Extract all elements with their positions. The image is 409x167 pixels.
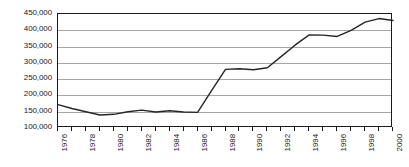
x-axis-tick xyxy=(169,127,170,131)
x-axis-tick xyxy=(252,127,253,131)
x-axis-tick-label: 1978 xyxy=(89,134,97,151)
x-axis-tick xyxy=(378,127,379,131)
x-axis-tick xyxy=(364,127,365,131)
x-axis-tick xyxy=(225,127,226,131)
y-axis-tick-label: 450,000 xyxy=(0,9,52,17)
y-axis-tick-label: 200,000 xyxy=(0,90,52,98)
plot-area xyxy=(57,13,392,127)
y-axis-tick-label: 250,000 xyxy=(0,74,52,82)
data-series-line xyxy=(58,14,393,128)
x-axis-tick xyxy=(99,127,100,131)
x-axis-tick xyxy=(85,127,86,131)
x-axis-tick xyxy=(57,127,58,131)
x-axis-tick xyxy=(266,127,267,131)
x-axis-tick xyxy=(308,127,309,131)
x-axis-tick xyxy=(294,127,295,131)
y-axis-tick-label: 100,000 xyxy=(0,123,52,131)
y-axis-tick-label: 150,000 xyxy=(0,107,52,115)
x-axis-tick xyxy=(141,127,142,131)
x-axis-tick xyxy=(336,127,337,131)
x-axis-tick xyxy=(71,127,72,131)
x-axis-tick-label: 1994 xyxy=(312,134,320,151)
x-axis-tick xyxy=(127,127,128,131)
x-axis-tick xyxy=(238,127,239,131)
x-axis-tick-label: 1980 xyxy=(117,134,125,151)
x-axis-tick-label: 2000 xyxy=(396,134,404,151)
x-axis-tick-label: 1986 xyxy=(201,134,209,151)
x-axis-tick-label: 1992 xyxy=(284,134,292,151)
x-axis-tick-label: 1976 xyxy=(61,134,69,151)
x-axis-tick-label: 1998 xyxy=(368,134,376,151)
x-axis-tick xyxy=(155,127,156,131)
x-axis-tick xyxy=(350,127,351,131)
x-axis-tick-label: 1984 xyxy=(173,134,181,151)
x-axis-tick xyxy=(197,127,198,131)
x-axis-tick xyxy=(322,127,323,131)
x-axis-tick xyxy=(392,127,393,131)
line-chart: 450,000400,000350,000300,000250,000200,0… xyxy=(0,0,409,167)
x-axis-tick xyxy=(183,127,184,131)
y-axis-tick-label: 300,000 xyxy=(0,58,52,66)
series-polyline xyxy=(58,19,393,115)
x-axis-tick xyxy=(280,127,281,131)
x-axis-tick xyxy=(211,127,212,131)
x-axis-tick-label: 1982 xyxy=(145,134,153,151)
x-axis-tick-label: 1990 xyxy=(256,134,264,151)
x-axis-tick xyxy=(113,127,114,131)
y-axis-tick-label: 350,000 xyxy=(0,42,52,50)
y-axis-tick-label: 400,000 xyxy=(0,25,52,33)
x-axis-tick-label: 1996 xyxy=(340,134,348,151)
x-axis-tick-label: 1988 xyxy=(229,134,237,151)
